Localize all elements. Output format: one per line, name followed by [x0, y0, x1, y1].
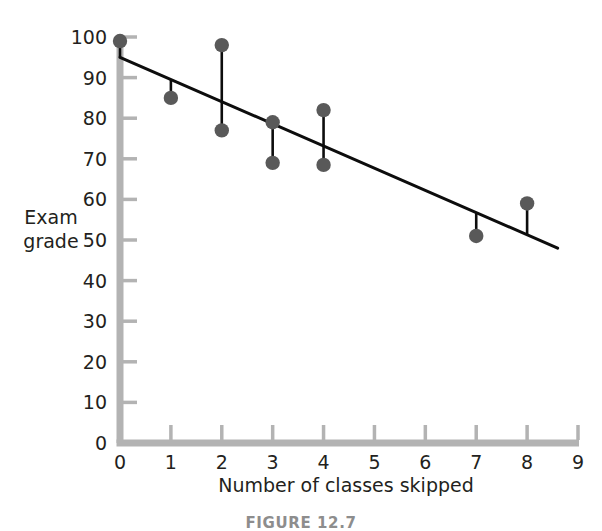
x-tick-label: 9 — [572, 451, 584, 473]
y-tick-label: 50 — [83, 229, 107, 251]
figure-caption: FIGURE 12.7 — [246, 514, 357, 531]
figure-container: 0102030405060708090100 0123456789 Number… — [0, 0, 602, 531]
x-tick-label: 1 — [165, 451, 177, 473]
y-tick-label: 30 — [83, 310, 107, 332]
y-tick-label: 0 — [95, 432, 107, 454]
x-axis-title: Number of classes skipped — [218, 474, 474, 496]
data-point — [469, 229, 483, 243]
data-point — [265, 115, 279, 129]
data-point — [164, 91, 178, 105]
x-tick-label: 0 — [114, 451, 126, 473]
y-axis-title-line1: Exam — [24, 206, 77, 228]
x-tick-label: 5 — [368, 451, 380, 473]
x-tick-label: 4 — [318, 451, 330, 473]
data-point — [520, 196, 534, 210]
y-tick-label: 10 — [83, 391, 107, 413]
y-tick-label: 40 — [83, 270, 107, 292]
data-point — [215, 123, 229, 137]
x-tick-label: 7 — [470, 451, 482, 473]
y-tick-label: 80 — [83, 107, 107, 129]
x-tick-label: 2 — [216, 451, 228, 473]
y-tick-label: 60 — [83, 188, 107, 210]
x-tick-label: 3 — [267, 451, 279, 473]
scatter-plot-chart: 0102030405060708090100 0123456789 Number… — [0, 0, 602, 531]
data-point — [316, 103, 330, 117]
data-point — [316, 158, 330, 172]
x-tick-label: 8 — [521, 451, 533, 473]
y-tick-label: 70 — [83, 148, 107, 170]
data-point — [113, 34, 127, 48]
data-point — [215, 38, 229, 52]
x-tick-label: 6 — [419, 451, 431, 473]
data-point — [265, 156, 279, 170]
y-tick-label: 100 — [71, 26, 107, 48]
y-axis-title-line2: grade — [23, 230, 78, 252]
y-tick-label: 90 — [83, 67, 107, 89]
y-tick-label: 20 — [83, 351, 107, 373]
